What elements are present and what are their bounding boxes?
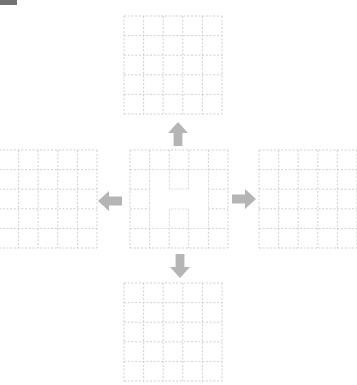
- arrow-right-svg: [231, 187, 257, 213]
- left-grid[interactable]: [0, 150, 97, 248]
- top-grid-svg: [124, 16, 222, 114]
- bottom-grid-lines: [124, 283, 222, 381]
- bottom-grid[interactable]: [124, 283, 222, 381]
- arrow-down-icon: [166, 253, 190, 279]
- arrow-down-svg: [166, 253, 192, 279]
- worksheet-canvas: [0, 0, 357, 385]
- arrow-up-glyph: [168, 122, 188, 146]
- top-grid-lines: [124, 16, 222, 114]
- arrow-down-glyph: [170, 254, 190, 278]
- left-grid-svg: [0, 150, 97, 248]
- left-grid-lines: [0, 150, 97, 248]
- center-grid-svg: [130, 150, 228, 248]
- top-grid[interactable]: [124, 16, 222, 114]
- center-grid[interactable]: [130, 150, 228, 248]
- right-grid[interactable]: [259, 150, 357, 248]
- right-grid-lines: [259, 150, 357, 248]
- arrow-right-glyph: [232, 189, 256, 209]
- arrow-up-svg: [166, 121, 192, 147]
- arrow-left-icon: [97, 187, 123, 211]
- right-grid-svg: [259, 150, 357, 248]
- bottom-grid-svg: [124, 283, 222, 381]
- arrow-up-icon: [166, 121, 190, 147]
- arrow-left-svg: [97, 187, 123, 213]
- arrow-left-glyph: [98, 191, 122, 211]
- h-shape-polygon: [150, 170, 209, 229]
- arrow-right-icon: [231, 187, 257, 211]
- page-corner-artifact: [0, 0, 17, 5]
